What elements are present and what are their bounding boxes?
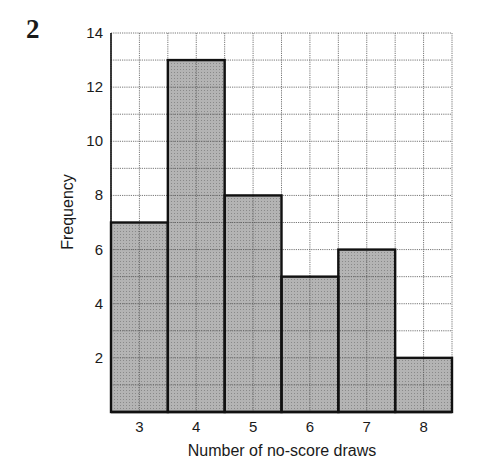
x-tick-label: 7: [363, 418, 371, 435]
x-tick-label: 4: [192, 418, 200, 435]
y-axis-label: Frequency: [59, 174, 76, 250]
x-tick-label: 6: [306, 418, 314, 435]
x-axis-ticks: 345678: [135, 418, 428, 435]
x-axis-label: Number of no-score draws: [188, 442, 377, 459]
y-tick-label: 10: [86, 132, 103, 149]
y-tick-label: 4: [95, 295, 103, 312]
x-tick-label: 3: [135, 418, 143, 435]
histogram-chart: 2468101214 345678 Frequency Number of no…: [0, 0, 481, 468]
x-tick-label: 8: [419, 418, 427, 435]
y-tick-label: 8: [95, 186, 103, 203]
y-tick-label: 6: [95, 241, 103, 258]
y-tick-label: 14: [86, 24, 103, 41]
y-tick-label: 2: [95, 349, 103, 366]
y-axis-ticks: 2468101214: [86, 24, 103, 366]
y-tick-label: 12: [86, 78, 103, 95]
x-tick-label: 5: [249, 418, 257, 435]
